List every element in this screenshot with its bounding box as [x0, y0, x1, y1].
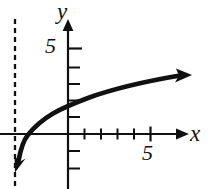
y-axis-ticks: [68, 49, 82, 169]
y-axis-label: y: [57, 0, 67, 23]
x-axis-label: x: [190, 122, 200, 145]
x-axis-tick-label-5: 5: [142, 142, 153, 164]
logarithmic-curve: [15, 69, 193, 173]
x-axis-arrowhead: [176, 129, 189, 140]
graph-figure: y x 5 5: [0, 0, 208, 189]
y-axis-tick-label-5: 5: [45, 35, 56, 57]
plot-canvas: [0, 0, 208, 189]
curve-path: [19, 76, 181, 161]
